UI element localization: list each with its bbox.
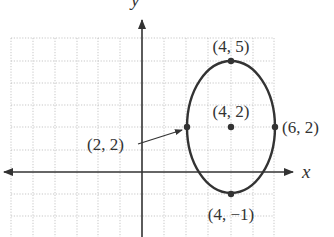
point-bottom <box>228 191 234 197</box>
label-left: (2, 2) <box>87 135 124 154</box>
x-axis-label: x <box>301 161 311 182</box>
label-center: (4, 2) <box>213 102 250 121</box>
ellipse-graph: x y (4, 5) (4, 2) (6, 2) (4, −1) (2, 2) <box>0 0 334 237</box>
label-top: (4, 5) <box>213 37 250 56</box>
point-top <box>228 58 234 64</box>
annotation-arrow <box>138 130 182 144</box>
label-bottom: (4, −1) <box>208 205 254 224</box>
point-center <box>228 124 234 130</box>
y-axis-label: y <box>129 0 140 10</box>
point-left <box>184 124 190 130</box>
point-right <box>272 124 278 130</box>
label-right: (6, 2) <box>282 118 319 137</box>
